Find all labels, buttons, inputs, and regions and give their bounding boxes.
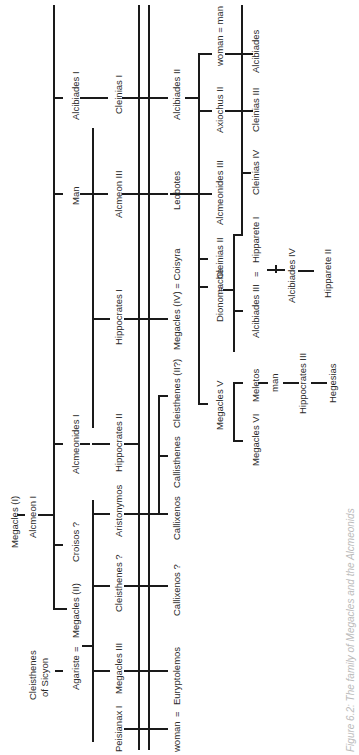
line-dionomache [198,286,208,288]
figure-caption: Figure 6.2: The family of Megacles and t… [345,508,356,752]
line-hippocrates2-b [124,443,138,445]
label-callixenos: Callixenos [172,496,182,540]
line-alcibiades2 [185,97,198,99]
label-alcmeon-III: Alcmeon III [114,170,124,218]
label-hippocrates-II: Hippocrates II [114,413,124,472]
line-alcmeonides1 [53,443,63,445]
label-megacles-I: Megacles (I) [10,496,20,548]
line-callixenos-spine [158,395,160,513]
line-hippocrates1-spine [92,318,94,428]
line-alcmeonides1-b [80,443,90,445]
line-hippocrates2-drop [138,380,140,444]
line-alcibiades2-children [198,53,200,113]
line-gen4-spine-b [148,5,150,750]
label-man: Man [71,187,81,205]
line-cleinias2 [198,258,208,260]
label-axiochus-II: Axiochus II [215,87,225,133]
line-alcibiades1-b [80,97,108,99]
label-alcibiades-IV: Alcibiades IV [287,248,297,303]
line-megacles6 [233,440,243,442]
line-alcmeon-to-spine [38,514,54,516]
line-aristonymos [92,513,110,515]
line-woman-man-b [225,53,253,55]
line-megacles5-children [233,382,235,440]
line-axiochus-b [225,110,253,112]
label-woman-man: woman = man [215,6,225,66]
line-hipparete2 [298,270,314,272]
line-megacles3 [92,670,110,672]
label-hipparete-I: Hipparete I [251,217,261,263]
label-man-meletos: man [270,374,280,392]
label-cleisthenes-II: Cleisthenes (II?) [172,359,182,428]
label-aristonymos: Aristonymos [114,485,124,537]
line-megacles4 [148,318,168,320]
label-cleisthenes-sicyon: Cleisthenes [28,650,38,700]
label-hegesias: Hegesias [328,363,338,403]
line-man-b [80,193,108,195]
line-sicyon [55,670,63,672]
label-meletos: Meletos [251,369,261,402]
label-hippocrates-I: Hippocrates I [114,289,124,345]
line-alcibiades1 [53,97,63,99]
label-agariste: Agariste [71,655,81,690]
line-cleisthenes2 [158,395,168,397]
line-cleisthenes-q [92,585,110,587]
line-callisthenes [158,455,168,457]
line-leobotes-children [198,193,200,258]
label-alcmeon-I: Alcmeon I [28,496,38,538]
line-cleisthenes-q-b [124,585,168,587]
label-megacles-V: Megacles V [215,380,225,430]
line-alc4-marriage-h [267,269,275,271]
label-cleinias-IV: Cleinias IV [251,150,261,195]
label-eq4: = [251,271,261,277]
label-callixenos-q: Callixenos ? [172,564,182,616]
line-alcmeonides3 [198,193,212,195]
line-marriage-agariste [82,645,92,647]
label-hipparete-II: Hipparete II [323,249,333,298]
label-alcmeonides-I: Alcmeonides I [71,414,81,474]
label-euryptolemos: Euryptolemos [172,647,182,705]
line-hippocrates1 [92,318,110,320]
label-alcibiades-I: Alcibiades I [71,71,81,120]
line-megacles2 [53,608,67,610]
line-aristonymos-b [124,513,168,515]
label-cleisthenes-sicyon-2: of Sicyon [40,658,50,697]
label-alcibiades: Alcibiades [251,30,261,73]
label-cleinias-I: Cleinias I [114,75,124,114]
label-cleisthenes-q: Cleisthenes ? [114,554,124,612]
label-megacles-II: Megacles (II) [71,583,81,638]
line-gen2-spine [53,5,55,438]
line-megacles2-down [53,438,55,609]
line-alcibiades3 [233,310,243,312]
label-megacles-III: Megacles III [114,643,124,694]
line-gen4-spine-a [138,5,140,750]
label-alcibiades-II: Alcibiades II [172,69,182,120]
label-cleinias-III: Cleinias III [251,88,261,132]
line-man [53,193,63,195]
line-megacles4-children [198,286,200,404]
label-peisianax-I: Peisianax I [114,706,124,752]
label-cleinias-II: Cleinias II [215,237,225,279]
line-peisianax [124,728,168,730]
label-eq1: = [71,646,81,652]
label-eq3: = [215,286,225,292]
label-eq2: = [172,711,182,717]
label-callisthenes: Callisthenes [172,436,182,488]
label-hippocrates-III: Hippocrates III [298,353,308,414]
line-alcibiades3-hipparete [233,234,235,352]
label-alcmeonides-III: Alcmeonides III [215,160,225,225]
line-alcmeon3 [122,193,168,195]
line-megacles3-b [124,670,168,672]
label-alcibiades-III: Alcibiades III [251,284,261,338]
label-megacles-VI: Megacles VI [251,414,261,466]
line-megacles5 [198,403,208,405]
line-cleinias4-drop [241,172,243,236]
line-alc4 [275,269,285,271]
line-axiochus [198,110,212,112]
line-meletos [233,382,243,384]
line-woman-man [198,53,212,55]
line-hippocrates2 [92,443,110,445]
line-hippocrates3-hegesias [311,382,327,384]
label-woman: woman [172,721,182,752]
label-megacles-IV-coisyra: Megacles (IV) = Coisyra [172,248,182,350]
